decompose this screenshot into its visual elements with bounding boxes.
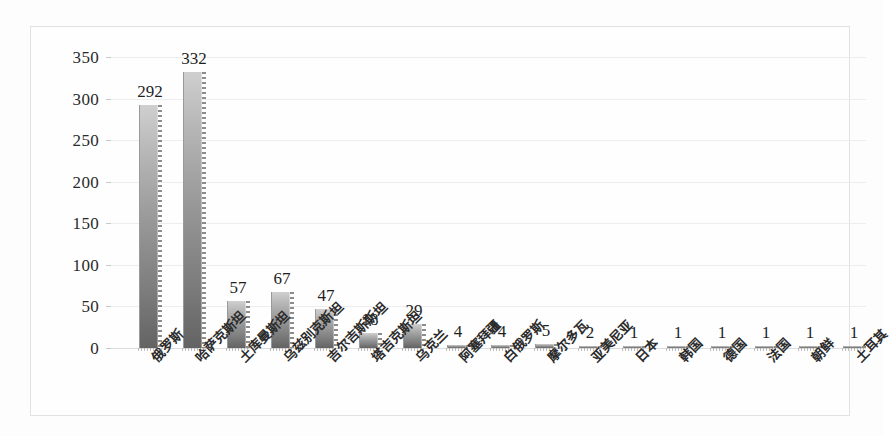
y-tick-label-250: 250 bbox=[53, 132, 99, 149]
chart-frame: 050100150200250300350 292332576747182944… bbox=[30, 26, 850, 416]
y-tick-label-0: 0 bbox=[53, 340, 99, 357]
bar-group[interactable]: 292 bbox=[128, 57, 172, 348]
y-tick-mark-0 bbox=[106, 348, 111, 349]
bar-group[interactable]: 5 bbox=[524, 57, 568, 348]
bar-group[interactable]: 4 bbox=[480, 57, 524, 348]
y-tick-mark-300 bbox=[106, 99, 111, 100]
bar-group[interactable]: 29 bbox=[392, 57, 436, 348]
plot-area: 29233257674718294452111111 bbox=[106, 57, 866, 348]
bar-value-label: 292 bbox=[128, 83, 172, 100]
bar[interactable] bbox=[183, 72, 202, 348]
bar-group[interactable]: 1 bbox=[612, 57, 656, 348]
bar-value-label: 57 bbox=[216, 279, 260, 296]
y-tick-label-150: 150 bbox=[53, 215, 99, 232]
bar-group[interactable]: 2 bbox=[568, 57, 612, 348]
x-axis-labels: 俄罗斯哈萨克斯坦土库曼斯坦乌兹别克斯坦吉尔吉斯斯坦塔吉克斯坦乌克兰阿塞拜疆白俄罗… bbox=[106, 352, 866, 436]
bar[interactable] bbox=[139, 105, 158, 348]
y-tick-mark-50 bbox=[106, 306, 111, 307]
bar-group[interactable]: 1 bbox=[744, 57, 788, 348]
bar-group[interactable]: 67 bbox=[260, 57, 304, 348]
y-tick-label-50: 50 bbox=[53, 298, 99, 315]
y-tick-label-200: 200 bbox=[53, 173, 99, 190]
y-tick-mark-250 bbox=[106, 140, 111, 141]
y-tick-mark-150 bbox=[106, 223, 111, 224]
y-tick-mark-200 bbox=[106, 182, 111, 183]
bar-group[interactable]: 1 bbox=[700, 57, 744, 348]
bar-value-label: 47 bbox=[304, 287, 348, 304]
bar-value-label: 67 bbox=[260, 270, 304, 287]
bar-group[interactable]: 57 bbox=[216, 57, 260, 348]
y-tick-mark-100 bbox=[106, 265, 111, 266]
y-axis-labels: 050100150200250300350 bbox=[31, 57, 99, 348]
y-tick-label-100: 100 bbox=[53, 256, 99, 273]
y-tick-mark-350 bbox=[106, 57, 111, 58]
y-tick-label-300: 300 bbox=[53, 90, 99, 107]
bar-group[interactable]: 332 bbox=[172, 57, 216, 348]
bar-group[interactable]: 1 bbox=[788, 57, 832, 348]
bar-value-label: 332 bbox=[172, 50, 216, 67]
bar-group[interactable]: 1 bbox=[656, 57, 700, 348]
y-tick-label-350: 350 bbox=[53, 49, 99, 66]
bar-group[interactable]: 4 bbox=[436, 57, 480, 348]
bar-group[interactable]: 1 bbox=[832, 57, 876, 348]
